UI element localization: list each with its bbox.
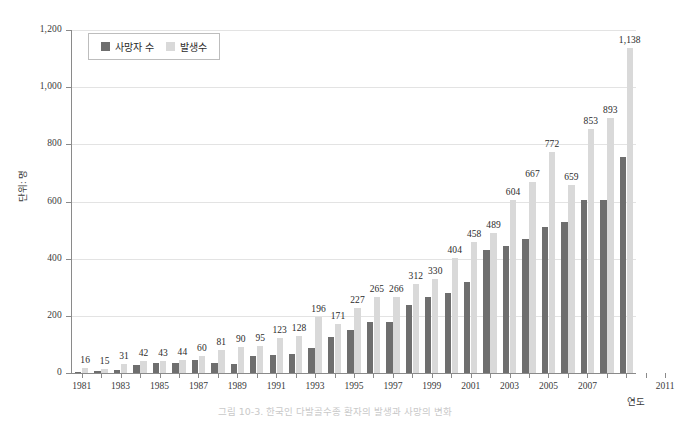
plot-area: 1615314243446081909512312819617122726526… [72, 30, 636, 373]
bar-incidence [335, 324, 341, 373]
bar-deaths [211, 363, 217, 373]
bar-deaths [367, 322, 373, 373]
bar-deaths [483, 250, 489, 373]
x-axis-title: 연도 [627, 394, 645, 408]
x-axis-tick [257, 373, 258, 378]
bar-deaths [522, 239, 528, 373]
y-axis-tick [66, 144, 72, 145]
x-axis-tick-label: 1997 [383, 381, 402, 391]
x-axis-tick [568, 373, 569, 378]
bar-value-label: 31 [119, 351, 129, 361]
x-axis-tick-label: 1993 [306, 381, 325, 391]
bar-value-label: 659 [564, 172, 579, 182]
bar-incidence [510, 200, 516, 373]
x-axis-tick-label: 2003 [500, 381, 519, 391]
x-axis-tick [665, 373, 666, 378]
legend: 사망자 수 발생수 [88, 33, 220, 60]
grid-line [72, 87, 636, 88]
bar-value-label: 128 [292, 323, 307, 333]
x-axis-tick-label: 1995 [345, 381, 364, 391]
x-axis-tick [373, 373, 374, 378]
x-axis-tick [510, 373, 511, 378]
bar-deaths [153, 363, 159, 373]
x-axis-tick [587, 373, 588, 378]
y-axis-tick-label: 0 [57, 367, 62, 377]
x-axis-tick-label: 2001 [461, 381, 480, 391]
legend-swatch-icon-deaths [101, 42, 110, 51]
x-axis-tick [354, 373, 355, 378]
bar-value-label: 42 [139, 348, 149, 358]
bar-value-label: 16 [80, 355, 90, 365]
legend-entry-incidence: 발생수 [166, 39, 207, 54]
bar-deaths [503, 246, 509, 373]
bar-deaths [289, 354, 295, 373]
bar-incidence [218, 350, 224, 373]
bar-deaths [445, 293, 451, 373]
bar-incidence [296, 336, 302, 373]
bar-incidence [588, 129, 594, 373]
bar-value-label: 90 [236, 334, 246, 344]
x-axis-tick [607, 373, 608, 378]
bar-deaths [425, 297, 431, 373]
bar-incidence [432, 279, 438, 373]
bar-value-label: 489 [486, 220, 501, 230]
y-axis-tick-label: 200 [47, 310, 62, 320]
x-axis-tick [296, 373, 297, 378]
x-axis-tick [82, 373, 83, 378]
y-axis-tick [66, 373, 72, 374]
x-axis-tick [218, 373, 219, 378]
bar-deaths [561, 222, 567, 373]
bar-value-label: 95 [255, 333, 265, 343]
bar-deaths [172, 363, 178, 373]
bar-value-label: 772 [545, 139, 560, 149]
bar-incidence [277, 338, 283, 373]
bar-value-label: 266 [389, 284, 404, 294]
bar-value-label: 893 [603, 105, 618, 115]
bar-deaths [270, 355, 276, 373]
x-axis-tick [548, 373, 549, 378]
bar-value-label: 330 [428, 266, 443, 276]
bar-deaths [406, 305, 412, 373]
bar-incidence [529, 182, 535, 373]
bar-value-label: 44 [178, 347, 188, 357]
bar-value-label: 404 [447, 245, 462, 255]
bar-incidence [354, 308, 360, 373]
bar-deaths [192, 360, 198, 373]
x-axis-tick-label: 1987 [189, 381, 208, 391]
bar-deaths [133, 365, 139, 373]
bar-deaths [347, 330, 353, 373]
x-axis-tick-label: 2007 [578, 381, 597, 391]
bar-value-label: 312 [409, 271, 424, 281]
y-axis-tick-label: 400 [47, 253, 62, 263]
x-axis-tick [101, 373, 102, 378]
bar-value-label: 123 [272, 325, 287, 335]
bar-value-label: 853 [584, 116, 599, 126]
y-axis-tick [66, 259, 72, 260]
x-axis-tick-label: 1999 [422, 381, 441, 391]
x-axis-tick-label: 2005 [539, 381, 558, 391]
bar-deaths [308, 348, 314, 373]
bar-incidence [238, 347, 244, 373]
x-axis-tick [490, 373, 491, 378]
bar-incidence [160, 361, 166, 373]
y-axis-tick [66, 316, 72, 317]
bar-value-label: 227 [350, 295, 365, 305]
bar-incidence [413, 284, 419, 373]
x-axis-tick-label: 1989 [228, 381, 247, 391]
bar-value-label: 81 [217, 337, 227, 347]
bar-value-label: 1,138 [619, 35, 641, 45]
y-axis-title: 단위: 명 [15, 170, 29, 202]
bar-incidence [199, 356, 205, 373]
x-axis-tick [179, 373, 180, 378]
bar-incidence [549, 152, 555, 373]
x-axis-tick [198, 373, 199, 378]
figure-caption: 그림 10-3. 한국인 다발골수종 환자의 발생과 사망의 변화 [218, 404, 453, 418]
x-axis-tick [160, 373, 161, 378]
x-axis-tick [335, 373, 336, 378]
bar-deaths [620, 157, 626, 373]
x-axis-tick [393, 373, 394, 378]
y-axis-tick-label: 1,000 [40, 81, 62, 91]
y-axis-tick [66, 202, 72, 203]
legend-entry-deaths: 사망자 수 [101, 39, 154, 54]
